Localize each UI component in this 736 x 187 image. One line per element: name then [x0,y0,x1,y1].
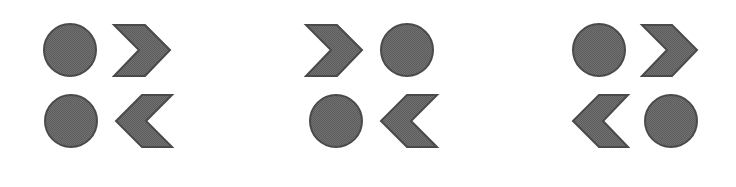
circle-icon [310,95,362,147]
chevron-left-icon [116,95,172,147]
panel-3 [573,24,697,147]
panel-1 [44,24,172,147]
circle-icon [44,24,96,76]
shape-panels-figure [0,0,736,187]
panel-2 [306,24,437,147]
chevron-right-icon [306,25,362,76]
chevron-left-icon [381,95,437,147]
circle-icon [45,95,97,147]
chevron-right-icon [114,25,170,76]
circle-icon [381,24,433,76]
chevron-right-icon [642,25,697,76]
circle-icon [573,24,625,76]
chevron-left-icon [573,95,628,147]
circle-icon [645,95,697,147]
